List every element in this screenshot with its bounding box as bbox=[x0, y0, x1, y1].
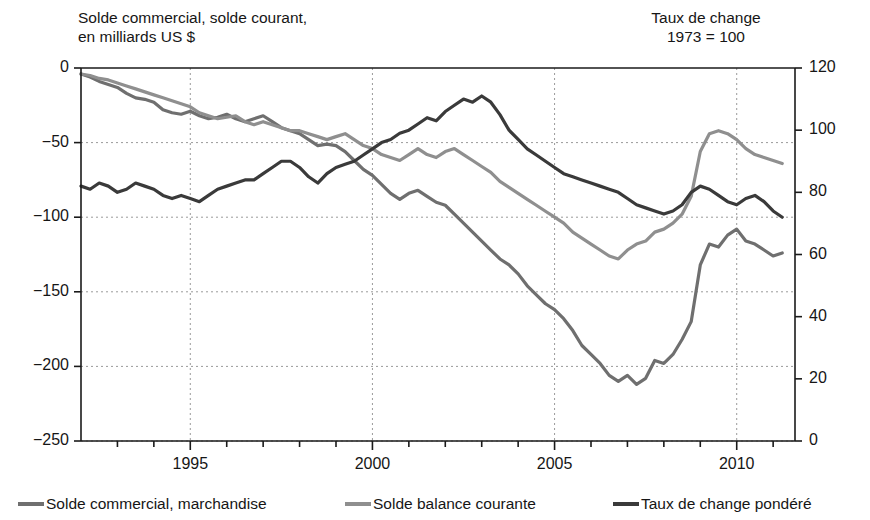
series-line-current-account bbox=[81, 74, 782, 259]
legend-label: Solde balance courante bbox=[373, 495, 536, 513]
right-axis-tick-label: 40 bbox=[809, 307, 827, 325]
x-axis-tick-label: 2005 bbox=[515, 455, 595, 473]
legend-swatch-icon bbox=[345, 502, 371, 506]
left-axis-tick-label: −250 bbox=[33, 431, 69, 449]
left-axis-tick-label: −100 bbox=[33, 207, 69, 225]
right-axis-tick-label: 120 bbox=[809, 58, 836, 76]
right-axis-tick-label: 20 bbox=[809, 369, 827, 387]
left-axis-tick-label: 0 bbox=[60, 58, 69, 76]
left-axis-tick-label: −200 bbox=[33, 356, 69, 374]
legend-label: Solde commercial, marchandise bbox=[46, 495, 267, 513]
left-axis-tick-label: −50 bbox=[42, 133, 69, 151]
left-axis-tick-label: −150 bbox=[33, 282, 69, 300]
legend-item[interactable]: Solde commercial, marchandise bbox=[18, 492, 267, 516]
right-axis-tick-label: 60 bbox=[809, 245, 827, 263]
plot-area bbox=[0, 0, 870, 520]
x-axis-tick-label: 1995 bbox=[150, 455, 230, 473]
legend-item[interactable]: Taux de change pondéré bbox=[613, 492, 812, 516]
right-axis-tick-label: 100 bbox=[809, 120, 836, 138]
x-axis-tick-label: 2010 bbox=[697, 455, 777, 473]
legend-item[interactable]: Solde balance courante bbox=[345, 492, 536, 516]
legend-swatch-icon bbox=[18, 502, 44, 506]
chart-container: Solde commercial, solde courant, en mill… bbox=[0, 0, 870, 520]
legend-swatch-icon bbox=[613, 502, 639, 506]
right-axis-tick-label: 80 bbox=[809, 182, 827, 200]
x-axis-tick-label: 2000 bbox=[332, 455, 412, 473]
legend-label: Taux de change pondéré bbox=[641, 495, 812, 513]
chart-legend: Solde commercial, marchandiseSolde balan… bbox=[0, 492, 870, 520]
right-axis-tick-label: 0 bbox=[809, 431, 818, 449]
